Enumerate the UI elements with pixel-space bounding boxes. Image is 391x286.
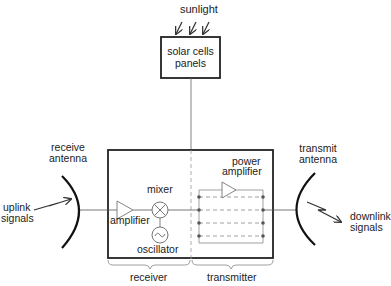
oscillator-icon — [152, 227, 168, 243]
downlink-label-2: signals — [350, 222, 383, 233]
receive-antenna-icon — [62, 176, 79, 248]
matrix-nodes — [197, 195, 265, 238]
sunlight-label: sunlight — [180, 4, 218, 15]
downlink-signal-icon — [307, 202, 341, 222]
receive-antenna-label-2: antenna — [38, 153, 98, 164]
transmitter-matrix — [199, 190, 263, 243]
transmit-antenna-icon — [297, 173, 316, 245]
sunlight-arrows-icon — [176, 22, 209, 34]
transmitter-label: transmitter — [207, 272, 257, 283]
amplifier-label: amplifier — [110, 215, 150, 226]
transmit-antenna-label-2: antenna — [288, 154, 348, 165]
receiver-label: receiver — [130, 272, 167, 283]
uplink-label-2: signals — [1, 213, 34, 224]
solar-panel-label-1: solar cells — [161, 46, 220, 57]
mixer-icon — [152, 202, 168, 218]
oscillator-label: oscillator — [137, 244, 178, 255]
transmitter-brace — [192, 260, 273, 269]
receiver-brace — [108, 260, 190, 269]
power-amplifier-icon — [222, 182, 236, 198]
power-amplifier-label-2: amplifier — [222, 166, 262, 177]
mixer-label: mixer — [147, 184, 173, 195]
solar-panel-label-2: panels — [161, 58, 220, 69]
uplink-signal-icon — [34, 199, 71, 210]
